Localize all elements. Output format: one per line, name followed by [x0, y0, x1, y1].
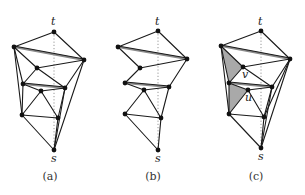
edge	[54, 60, 84, 150]
vertex-label-t: t	[258, 15, 263, 28]
vertex-t	[259, 29, 264, 34]
vertex-lt	[116, 45, 121, 50]
vertex-lt	[219, 44, 224, 49]
edge	[125, 114, 158, 150]
vertex-r3	[262, 115, 267, 120]
vertex-l2	[21, 82, 26, 87]
vertex-l3	[123, 112, 128, 117]
vertex-label-s: s	[258, 150, 264, 163]
edge	[125, 90, 144, 114]
vertex-label-u: u	[245, 91, 252, 104]
edge	[14, 47, 22, 115]
edge	[22, 115, 58, 118]
vertex-label-s: s	[155, 152, 161, 165]
vertex-r	[82, 58, 87, 63]
edge	[14, 47, 23, 84]
edge	[22, 91, 41, 115]
edge	[37, 60, 84, 68]
edge	[144, 90, 161, 118]
vertex-t	[156, 29, 161, 34]
vertex-m2	[142, 88, 147, 93]
vertex-label-v: v	[242, 68, 249, 81]
edge	[140, 59, 187, 68]
panel-caption: (b)	[145, 170, 161, 183]
edge	[144, 87, 169, 90]
vertex-l2	[227, 81, 232, 86]
vertex-r	[288, 57, 293, 62]
vertex-t	[52, 30, 57, 35]
vertex-l2	[123, 81, 128, 86]
vertex-l3	[20, 113, 25, 118]
vertex-m1	[35, 66, 40, 71]
panel-caption: (c)	[249, 170, 264, 183]
edge	[169, 59, 187, 87]
vertex-label-s: s	[51, 152, 57, 165]
edge	[41, 88, 65, 91]
edge	[229, 114, 261, 148]
edge	[22, 84, 23, 115]
edge	[41, 91, 58, 118]
panel-a: ts(a)	[12, 15, 87, 183]
vertex-r3	[56, 116, 61, 121]
edge	[125, 68, 140, 83]
graph-figure: ts(a) ts(b) tsvu(c)	[0, 0, 305, 195]
vertex-label-t: t	[155, 15, 160, 28]
edge	[221, 31, 261, 46]
vertex-r2	[270, 85, 275, 90]
edge	[23, 68, 37, 84]
vertex-label-t: t	[51, 15, 56, 28]
panel-b: ts(b)	[116, 15, 190, 183]
edge	[161, 87, 169, 118]
vertex-m1	[138, 66, 143, 71]
edge	[229, 114, 264, 117]
vertex-l3	[227, 112, 232, 117]
edge	[65, 60, 84, 88]
vertex-m2	[39, 89, 44, 94]
edge	[22, 115, 54, 150]
edge	[243, 59, 290, 67]
vertex-r2	[63, 86, 68, 91]
panel-caption: (a)	[42, 170, 57, 183]
edge	[125, 114, 161, 118]
vertex-r2	[167, 85, 172, 90]
edge	[118, 31, 158, 47]
vertex-r3	[159, 116, 164, 121]
vertex-lt	[12, 45, 17, 50]
edge	[14, 32, 54, 47]
edge	[261, 59, 290, 148]
heavy-edge	[14, 47, 84, 60]
edge	[272, 59, 290, 87]
vertex-r	[185, 57, 190, 62]
edge	[248, 87, 272, 90]
panel-c: tsvu(c)	[219, 15, 293, 183]
